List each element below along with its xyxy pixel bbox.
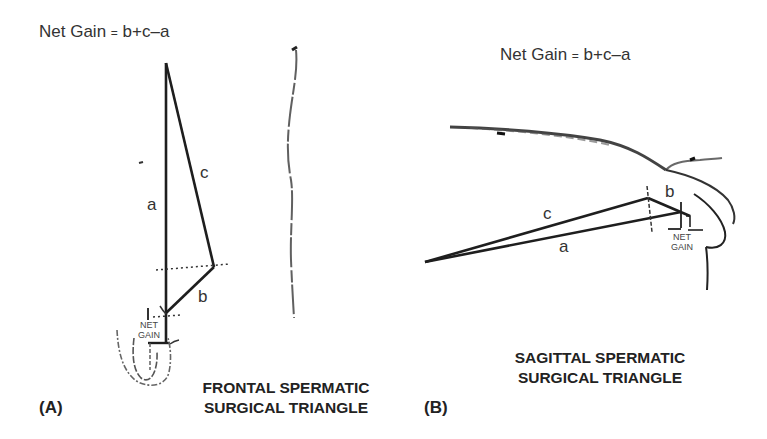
formula-equals: = bbox=[111, 26, 118, 40]
net-gain-line1: NET bbox=[138, 320, 160, 330]
segment-b-label-b: b bbox=[665, 182, 674, 202]
formula-expression: b+c–a bbox=[123, 22, 170, 41]
formula-expression: b+c–a bbox=[584, 45, 631, 64]
net-gain-line1: NET bbox=[671, 232, 693, 242]
segment-b-label: b bbox=[198, 287, 207, 307]
segment-c-label-b: c bbox=[543, 204, 552, 224]
caption-b-line1: SAGITTAL SPERMATIC bbox=[490, 348, 710, 368]
panel-b-letter: (B) bbox=[424, 398, 448, 418]
panel-b-drawing bbox=[425, 127, 734, 290]
net-gain-formula-b: Net Gain = b+c–a bbox=[500, 45, 630, 65]
caption-b: SAGITTAL SPERMATIC SURGICAL TRIANGLE bbox=[490, 348, 710, 388]
net-gain-line2: GAIN bbox=[671, 242, 693, 252]
net-gain-label-a: NET GAIN bbox=[138, 320, 160, 340]
net-gain-line2: GAIN bbox=[138, 330, 160, 340]
net-gain-label-b: NET GAIN bbox=[671, 232, 693, 252]
body-contour-line bbox=[288, 50, 297, 318]
segment-a-line-b bbox=[425, 212, 681, 262]
abdominal-contour-line bbox=[450, 127, 666, 170]
segment-c-line-b bbox=[425, 198, 648, 262]
scrotum-sketch bbox=[694, 194, 725, 248]
caption-a-line1: FRONTAL SPERMATIC bbox=[186, 378, 386, 398]
formula-label: Net Gain bbox=[39, 22, 106, 41]
panel-a-letter: (A) bbox=[39, 398, 63, 418]
caption-a: FRONTAL SPERMATIC SURGICAL TRIANGLE bbox=[186, 378, 386, 418]
segment-c-label: c bbox=[200, 163, 209, 183]
segment-a-label-b: a bbox=[559, 237, 568, 257]
segment-a-label: a bbox=[147, 195, 156, 215]
caption-b-line2: SURGICAL TRIANGLE bbox=[490, 368, 710, 388]
formula-equals: = bbox=[572, 49, 579, 63]
caption-a-line2: SURGICAL TRIANGLE bbox=[186, 398, 386, 418]
net-gain-formula-a: Net Gain = b+c–a bbox=[39, 22, 169, 42]
formula-label: Net Gain bbox=[500, 45, 567, 64]
